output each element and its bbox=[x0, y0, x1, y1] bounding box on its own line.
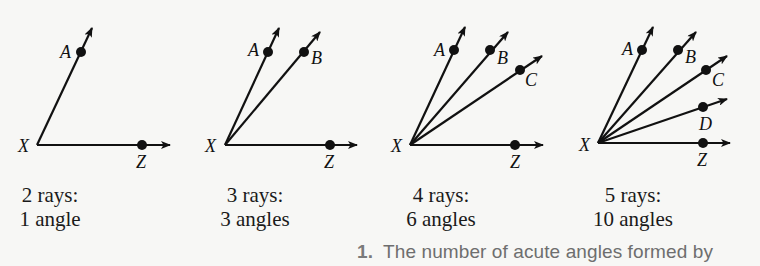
exercise-text: The number of acute angles formed by bbox=[383, 241, 713, 262]
point-label-a: A bbox=[59, 42, 72, 62]
fig3-figure: ABCZX bbox=[390, 27, 543, 172]
fig2-figure: ABZX bbox=[204, 28, 357, 172]
point-label-b: B bbox=[497, 48, 508, 68]
point-z-dot bbox=[698, 138, 708, 148]
fig1-figure: AZX bbox=[17, 28, 170, 172]
point-label-b: B bbox=[685, 47, 696, 67]
point-c-dot bbox=[701, 65, 711, 75]
point-label-c: C bbox=[525, 70, 538, 90]
caption-5-rays: 5 rays: 10 angles bbox=[578, 183, 688, 231]
caption-2-rays: 2 rays: 1 angle bbox=[0, 183, 100, 231]
point-label-b: B bbox=[311, 48, 322, 68]
point-a-dot bbox=[449, 45, 459, 55]
vertex-label-x: X bbox=[204, 136, 217, 156]
point-label-d: D bbox=[698, 114, 712, 134]
fig4-figure: ABCDZX bbox=[578, 27, 730, 170]
exercise-number: 1. bbox=[357, 241, 373, 262]
point-b-dot bbox=[673, 45, 683, 55]
point-z-dot bbox=[510, 140, 520, 150]
point-label-z: Z bbox=[324, 152, 335, 172]
point-label-z: Z bbox=[136, 152, 147, 172]
point-label-a: A bbox=[621, 39, 634, 59]
caption-angles-count: 6 angles bbox=[391, 207, 491, 231]
caption-rays-count: 5 rays: bbox=[578, 183, 688, 207]
caption-angles-count: 3 angles bbox=[205, 207, 305, 231]
point-label-a: A bbox=[247, 40, 260, 60]
point-a-dot bbox=[637, 45, 647, 55]
vertex-label-x: X bbox=[17, 136, 30, 156]
point-b-dot bbox=[299, 47, 309, 57]
caption-rays-count: 3 rays: bbox=[205, 183, 305, 207]
point-z-dot bbox=[325, 140, 335, 150]
caption-rays-count: 2 rays: bbox=[0, 183, 100, 207]
point-label-z: Z bbox=[697, 150, 708, 170]
point-a-dot bbox=[263, 47, 273, 57]
caption-4-rays: 4 rays: 6 angles bbox=[391, 183, 491, 231]
point-a-dot bbox=[76, 47, 86, 57]
caption-angles-count: 1 angle bbox=[0, 207, 100, 231]
caption-angles-count: 10 angles bbox=[578, 207, 688, 231]
point-label-c: C bbox=[712, 70, 725, 90]
vertex-label-x: X bbox=[578, 135, 591, 155]
point-z-dot bbox=[137, 140, 147, 150]
caption-3-rays: 3 rays: 3 angles bbox=[205, 183, 305, 231]
point-label-a: A bbox=[433, 40, 446, 60]
point-c-dot bbox=[515, 65, 525, 75]
exercise-1: 1.The number of acute angles formed by bbox=[357, 241, 713, 263]
vertex-label-x: X bbox=[390, 136, 403, 156]
point-d-dot bbox=[698, 102, 708, 112]
caption-rays-count: 4 rays: bbox=[391, 183, 491, 207]
point-label-z: Z bbox=[510, 152, 521, 172]
point-b-dot bbox=[485, 45, 495, 55]
